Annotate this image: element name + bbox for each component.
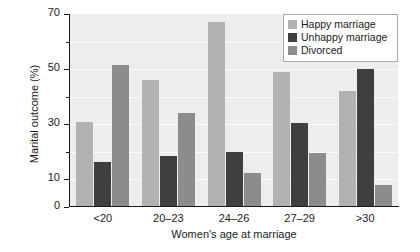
bar (142, 80, 159, 207)
bar (94, 162, 111, 207)
y-axis-tick-minor (66, 97, 69, 98)
y-axis-tick (64, 69, 69, 70)
chart-legend: Happy marriage Unhappy marriage Divorced (283, 14, 398, 62)
x-axis-line (69, 206, 399, 207)
legend-label-divorced: Divorced (301, 44, 342, 57)
x-axis-tick-label: 20–23 (138, 212, 198, 224)
y-axis-tick (64, 124, 69, 125)
y-axis-tick-label: 30 (18, 116, 60, 128)
legend-item-divorced: Divorced (288, 44, 393, 57)
legend-swatch-divorced (288, 46, 297, 55)
x-axis-tick-label: 24–26 (204, 212, 264, 224)
bar (273, 72, 290, 207)
y-axis-tick-label: 0 (18, 199, 60, 211)
legend-item-happy-marriage: Happy marriage (288, 18, 393, 31)
bar (160, 156, 177, 207)
x-axis-tick-label: >30 (335, 212, 395, 224)
bar (244, 173, 261, 207)
bar (208, 22, 225, 207)
bar (76, 122, 93, 207)
bar-chart-figure: Marital outcome (%) 010305070 <2020–2324… (0, 0, 420, 252)
bar (309, 153, 326, 207)
bar (178, 113, 195, 207)
y-axis-line (69, 14, 70, 207)
y-axis-tick-label: 50 (18, 61, 60, 73)
x-axis-tick-label: <20 (73, 212, 133, 224)
bar (112, 65, 129, 207)
y-axis-tick-label: 70 (18, 6, 60, 18)
legend-label-unhappy-marriage: Unhappy marriage (301, 31, 387, 44)
legend-item-unhappy-marriage: Unhappy marriage (288, 31, 393, 44)
bar (339, 91, 356, 207)
x-axis-title: Women's age at marriage (70, 228, 398, 240)
bar (357, 69, 374, 207)
legend-swatch-unhappy-marriage (288, 33, 297, 42)
bar (226, 152, 243, 207)
legend-label-happy-marriage: Happy marriage (301, 18, 376, 31)
y-axis-tick (64, 14, 69, 15)
y-axis-tick (64, 207, 69, 208)
y-axis-tick-label: 10 (18, 171, 60, 183)
legend-swatch-happy-marriage (288, 20, 297, 29)
x-axis-tick-label: 27–29 (270, 212, 330, 224)
y-axis-tick (64, 179, 69, 180)
y-axis-tick-minor (66, 42, 69, 43)
y-axis-tick-minor (66, 152, 69, 153)
bar (291, 123, 308, 207)
bar (375, 185, 392, 207)
